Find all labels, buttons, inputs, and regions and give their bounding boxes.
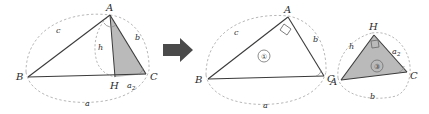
arrow-right-icon: [163, 38, 193, 62]
side-label-c: c: [56, 26, 61, 35]
diagram-canvas: B A C H c b h a a 2 B: [0, 0, 429, 114]
dashed-arc-upper-left: [206, 15, 288, 75]
right-angle-square-at-a: [280, 24, 291, 35]
side-label-a: a: [85, 99, 90, 108]
side-label-a2-subscript: 2: [396, 51, 401, 57]
region-number-label: ③: [374, 63, 380, 71]
edge-ac: [288, 17, 324, 76]
geometry-diagram: B A C H c b h a a 2 B: [0, 0, 429, 114]
side-label-a2-subscript: 2: [131, 85, 136, 91]
vertex-label-c: C: [410, 70, 418, 81]
panel-right: A H C h a 2 b ③: [329, 21, 418, 101]
transition-arrow: [163, 38, 193, 62]
side-label-h: h: [98, 43, 103, 52]
edge-bc: [208, 76, 324, 79]
vertex-label-h: H: [368, 21, 378, 32]
panel-middle: B A C c b a ①: [194, 4, 335, 110]
vertex-label-b: B: [194, 74, 202, 85]
vertex-label-h: H: [109, 80, 119, 91]
dashed-arc-upper-right: [288, 16, 326, 72]
side-label-h: h: [349, 42, 354, 51]
vertex-label-c: C: [150, 71, 158, 82]
side-label-b: b: [370, 92, 375, 101]
vertex-label-a: A: [329, 76, 337, 87]
edge-ba: [208, 17, 288, 79]
region-number-label: ①: [261, 53, 267, 61]
vertex-label-a: A: [283, 4, 291, 15]
side-label-c: c: [234, 28, 239, 37]
vertex-label-b: B: [15, 71, 23, 82]
panel-left: B A C H c b h a a 2: [15, 2, 158, 108]
side-label-a: a: [263, 101, 268, 110]
side-label-b: b: [135, 33, 140, 42]
side-label-b: b: [313, 35, 318, 44]
vertex-label-a: A: [105, 2, 113, 13]
